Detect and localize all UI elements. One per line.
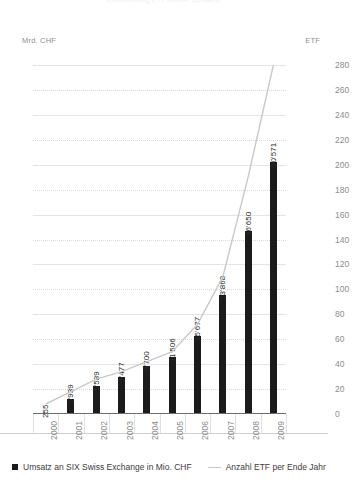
right-axis-tick: 280 bbox=[325, 61, 354, 70]
chart-title-text: Entwicklung ETF-Markt Schweiz bbox=[107, 0, 222, 4]
right-axis-tick: 120 bbox=[325, 260, 354, 269]
right-axis-tick: 40 bbox=[325, 360, 354, 369]
x-axis-tick: 2005 bbox=[176, 421, 185, 440]
category-separator bbox=[109, 414, 110, 433]
legend-item-bars: Umsatz an SIX Swiss Exchange in Mio. CHF bbox=[12, 462, 192, 472]
x-axis-tick: 2007 bbox=[227, 421, 236, 440]
x-axis-tick: 2004 bbox=[151, 421, 160, 440]
right-axis-tick: 200 bbox=[325, 161, 354, 170]
plot-area: 0510152025303540455055606570 02040608010… bbox=[33, 65, 286, 414]
right-axis-tick: 140 bbox=[325, 236, 354, 245]
right-axis-tick: 60 bbox=[325, 335, 354, 344]
right-axis-tick: 20 bbox=[325, 385, 354, 394]
x-axis-tick: 2009 bbox=[277, 421, 286, 440]
legend-label-line: Anzahl ETF per Ende Jahr bbox=[226, 462, 326, 472]
x-axis-tick: 2003 bbox=[126, 421, 135, 440]
right-axis-tick: 160 bbox=[325, 211, 354, 220]
right-axis-unit-label: ETF bbox=[305, 36, 320, 45]
legend-label-bars: Umsatz an SIX Swiss Exchange in Mio. CHF bbox=[23, 462, 192, 472]
left-axis-unit-label: Mrd. CHF bbox=[22, 36, 56, 45]
x-axis-tick: 2008 bbox=[252, 421, 261, 440]
category-separator bbox=[286, 414, 287, 433]
right-axis-tick: 240 bbox=[325, 111, 354, 120]
cropped-chart-title: Entwicklung ETF-Markt Schweiz bbox=[0, 0, 328, 14]
x-axis-baseline bbox=[33, 413, 286, 414]
legend-item-line: Anzahl ETF per Ende Jahr bbox=[208, 462, 326, 472]
right-axis-tick: 260 bbox=[325, 86, 354, 95]
x-axis-tick: 2001 bbox=[75, 421, 84, 440]
category-separator bbox=[33, 414, 34, 433]
x-axis-tick: 2006 bbox=[201, 421, 210, 440]
right-axis-tick: 80 bbox=[325, 310, 354, 319]
right-axis-tick: 180 bbox=[325, 186, 354, 195]
x-axis-tick: 2002 bbox=[100, 421, 109, 440]
legend-line-icon bbox=[208, 467, 221, 468]
right-axis-tick: 100 bbox=[325, 285, 354, 294]
right-axis-tick: 0 bbox=[325, 410, 354, 419]
legend-square-icon bbox=[12, 464, 18, 470]
line-series bbox=[33, 65, 286, 414]
right-axis-tick: 220 bbox=[325, 136, 354, 145]
chart-legend: Umsatz an SIX Swiss Exchange in Mio. CHF… bbox=[12, 462, 326, 472]
category-separator bbox=[210, 414, 211, 433]
x-axis-tick: 2000 bbox=[50, 421, 59, 440]
